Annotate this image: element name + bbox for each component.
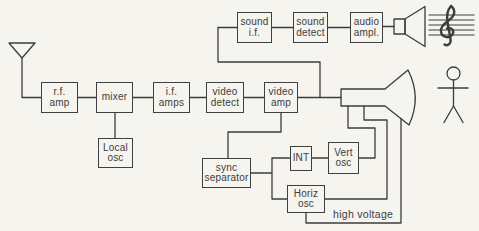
speaker-icon — [394, 7, 425, 47]
wire-videoamp-syncseparator — [228, 113, 281, 158]
tv-receiver-block-diagram: r.f. amp mixer i.f. amps video detect vi… — [0, 0, 479, 231]
viewer-person-icon — [438, 67, 468, 123]
wire-antenna-rf — [22, 58, 41, 98]
treble-clef-icon — [441, 6, 454, 45]
block-local-osc: Local osc — [98, 138, 133, 168]
block-rf-amp: r.f. amp — [41, 82, 78, 113]
picture-tube-icon — [341, 70, 415, 125]
block-sound-if: sound i.f. — [237, 12, 272, 43]
block-vert-osc: Vert osc — [328, 142, 359, 174]
block-sound-detect: sound detect — [293, 12, 328, 43]
block-video-amp: video amp — [264, 82, 298, 113]
block-audio-ampl: audio ampl. — [350, 12, 383, 43]
block-int: INT — [290, 146, 312, 171]
block-sync-separator: sync separator — [202, 158, 251, 188]
block-mixer: mixer — [96, 82, 133, 113]
wire-syncseparator-split — [251, 158, 290, 199]
block-video-detect: video detect — [206, 82, 244, 113]
block-horiz-osc: Horiz osc — [287, 185, 325, 213]
antenna-icon — [9, 43, 41, 98]
high-voltage-label: high voltage — [333, 208, 393, 220]
block-if-amps: i.f. amps — [153, 82, 190, 113]
